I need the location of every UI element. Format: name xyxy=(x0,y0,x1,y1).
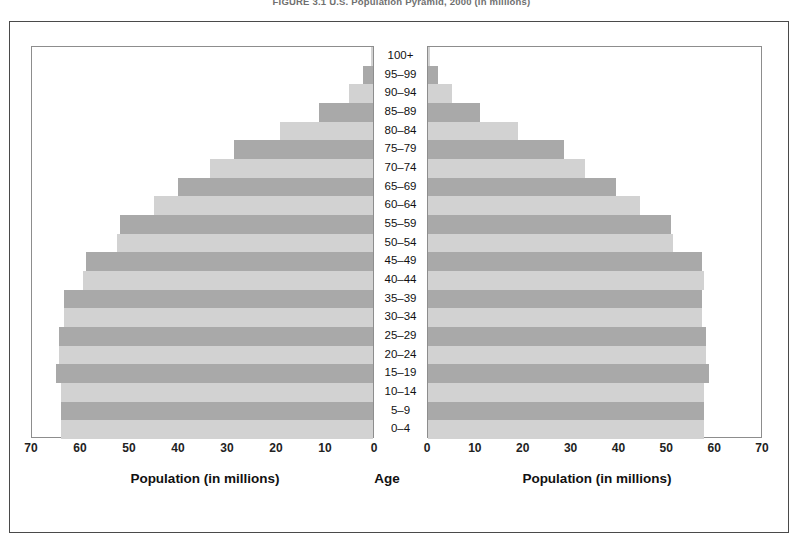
female-bar xyxy=(428,327,706,346)
male-bar-row xyxy=(32,271,373,290)
male-bar xyxy=(371,47,373,66)
male-bar xyxy=(178,178,373,197)
male-bar-row xyxy=(32,178,373,197)
right-axis-tick: 0 xyxy=(412,441,442,455)
male-bar-row xyxy=(32,290,373,309)
male-bar-row xyxy=(32,140,373,159)
female-bar xyxy=(428,66,438,85)
left-axis-tick: 50 xyxy=(114,441,144,455)
female-bar xyxy=(428,234,673,253)
female-bar-row xyxy=(428,66,761,85)
male-bar xyxy=(349,84,373,103)
female-bar xyxy=(428,140,564,159)
female-bar xyxy=(428,308,702,327)
left-axis-tick: 70 xyxy=(16,441,46,455)
female-panel xyxy=(427,46,762,438)
right-axis-tick: 20 xyxy=(508,441,538,455)
age-group-label: 80–84 xyxy=(374,121,427,140)
female-bar xyxy=(428,290,702,309)
age-group-label: 65–69 xyxy=(374,177,427,196)
female-bar xyxy=(428,252,702,271)
female-bar-row xyxy=(428,383,761,402)
left-axis-caption: Population (in millions) xyxy=(40,470,370,487)
female-bar-row xyxy=(428,234,761,253)
left-axis-tick: 60 xyxy=(65,441,95,455)
left-axis-tick: 40 xyxy=(163,441,193,455)
female-bar-row xyxy=(428,308,761,327)
female-bars xyxy=(428,47,761,437)
age-group-label: 10–14 xyxy=(374,382,427,401)
right-axis-tick: 60 xyxy=(699,441,729,455)
left-axis-tick: 20 xyxy=(261,441,291,455)
male-bar xyxy=(64,308,373,327)
female-bar-row xyxy=(428,122,761,141)
male-bar-row xyxy=(32,420,373,439)
male-bar-row xyxy=(32,215,373,234)
right-axis-caption: Population (in millions) xyxy=(432,470,762,487)
female-bar-row xyxy=(428,159,761,178)
female-bar-row xyxy=(428,364,761,383)
pyramid-plot-area: 100+95–9990–9485–8980–8475–7970–7465–696… xyxy=(31,46,762,438)
female-bar-row xyxy=(428,178,761,197)
female-bar-row xyxy=(428,84,761,103)
male-bar xyxy=(210,159,373,178)
age-group-label: 20–24 xyxy=(374,345,427,364)
female-bar-row xyxy=(428,47,761,66)
age-group-label: 50–54 xyxy=(374,233,427,252)
female-bar xyxy=(428,346,706,365)
right-axis-tick: 10 xyxy=(460,441,490,455)
male-bar-row xyxy=(32,47,373,66)
female-bar-row xyxy=(428,402,761,421)
right-axis-tick: 40 xyxy=(603,441,633,455)
age-label-column: 100+95–9990–9485–8980–8475–7970–7465–696… xyxy=(374,46,427,438)
age-group-label: 55–59 xyxy=(374,214,427,233)
age-group-label: 25–29 xyxy=(374,326,427,345)
female-bar-row xyxy=(428,103,761,122)
male-bar-row xyxy=(32,383,373,402)
female-bar xyxy=(428,271,704,290)
female-bar-row xyxy=(428,196,761,215)
female-bar xyxy=(428,215,671,234)
female-bar xyxy=(428,47,430,66)
female-bar-row xyxy=(428,327,761,346)
right-axis-tick: 70 xyxy=(747,441,777,455)
male-bar xyxy=(234,140,373,159)
female-bar-row xyxy=(428,420,761,439)
age-group-label: 35–39 xyxy=(374,289,427,308)
male-bar xyxy=(319,103,373,122)
female-bar xyxy=(428,402,704,421)
male-bar xyxy=(86,252,373,271)
female-bar xyxy=(428,364,709,383)
left-axis-tick: 0 xyxy=(359,441,389,455)
age-group-label: 100+ xyxy=(374,46,427,65)
male-bar-row xyxy=(32,252,373,271)
age-group-label: 0–4 xyxy=(374,419,427,438)
female-bar-row xyxy=(428,290,761,309)
male-bar xyxy=(61,402,373,421)
male-bar-row xyxy=(32,84,373,103)
female-bar xyxy=(428,196,640,215)
age-axis-caption: Age xyxy=(352,470,422,487)
male-bar xyxy=(154,196,373,215)
female-bar xyxy=(428,84,452,103)
male-bar xyxy=(83,271,373,290)
male-bar xyxy=(56,364,373,383)
figure-caption: FIGURE 3.1 U.S. Population Pyramid, 2000… xyxy=(0,0,803,8)
age-group-label: 95–99 xyxy=(374,65,427,84)
female-bar-row xyxy=(428,271,761,290)
male-bar xyxy=(280,122,373,141)
male-bar-row xyxy=(32,346,373,365)
age-group-label: 85–89 xyxy=(374,102,427,121)
male-bar xyxy=(61,383,373,402)
female-bar xyxy=(428,103,480,122)
age-group-label: 45–49 xyxy=(374,251,427,270)
female-bar xyxy=(428,178,616,197)
age-group-label: 15–19 xyxy=(374,363,427,382)
age-group-label: 75–79 xyxy=(374,139,427,158)
male-bar xyxy=(61,420,373,439)
age-group-label: 70–74 xyxy=(374,158,427,177)
male-bar-row xyxy=(32,196,373,215)
age-group-label: 40–44 xyxy=(374,270,427,289)
male-bar xyxy=(59,327,373,346)
female-bar xyxy=(428,420,704,439)
